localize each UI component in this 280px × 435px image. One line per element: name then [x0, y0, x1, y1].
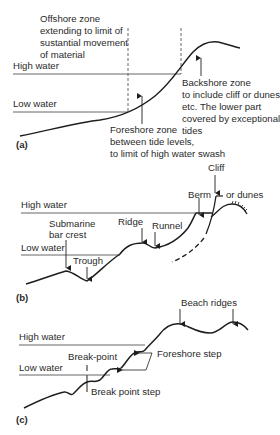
offshore-zone-label: Offshore zone extending to limit of sust…	[40, 13, 131, 60]
berm-label: Berm	[188, 189, 211, 200]
low-water-label-a: Low water	[13, 98, 58, 109]
high-water-label-c: High water	[19, 331, 66, 342]
backshore-zone-label: Backshore zone to include cliff or dunes…	[182, 77, 280, 136]
trough-label: Trough	[73, 255, 103, 266]
cliff-dashed-extension	[172, 238, 204, 262]
foreshore-step-label: Foreshore step	[157, 348, 222, 359]
high-water-label-a: High water	[13, 60, 60, 71]
panel-a-tag: (a)	[16, 139, 28, 150]
cliff-label: Cliff	[208, 162, 225, 173]
low-water-label-c: Low water	[19, 362, 64, 373]
dunes-label: or dunes	[226, 189, 264, 200]
low-water-label-b: Low water	[21, 242, 66, 253]
cliff-face	[206, 196, 216, 234]
beach-ridges-label: Beach ridges	[181, 297, 237, 308]
ridge-label: Ridge	[118, 216, 143, 227]
panel-c: Beach ridges High water Break-point Low …	[16, 297, 248, 425]
panel-a: Offshore zone extending to limit of sust…	[13, 13, 280, 159]
high-water-label-b: High water	[21, 199, 68, 210]
beach-profile-diagram: Offshore zone extending to limit of sust…	[0, 0, 280, 435]
break-point-label: Break-point	[68, 351, 117, 362]
panel-c-tag: (c)	[16, 414, 28, 425]
submarine-bar-label: Submarine bar crest	[49, 218, 98, 240]
panel-b: Cliff Berm or dunes High water Submarine…	[16, 162, 264, 303]
foreshore-zone-label: Foreshore zone between tide levels, to l…	[110, 124, 225, 159]
runnel-label: Runnel	[152, 220, 182, 231]
panel-b-tag: (b)	[16, 292, 28, 303]
break-point-step-label: Break point step	[91, 386, 160, 397]
